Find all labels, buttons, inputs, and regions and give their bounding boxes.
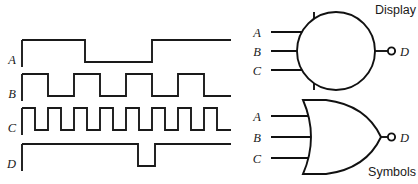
waveform-b bbox=[22, 74, 231, 96]
display-gate-inversion-bubble-icon bbox=[388, 47, 395, 54]
waveforms-group bbox=[22, 40, 231, 171]
display-gate[interactable]: A B C D bbox=[252, 12, 409, 90]
display-gate-input-label-c: C bbox=[253, 64, 262, 78]
waveform-c bbox=[22, 108, 231, 130]
or-gate-body bbox=[303, 100, 381, 174]
logic-symbols-svg: A B C D Display A B bbox=[240, 0, 418, 184]
caption-symbols: Symbols bbox=[368, 165, 416, 179]
caption-display: Display bbox=[375, 3, 417, 17]
waveform-d-label: D bbox=[6, 157, 16, 171]
timing-diagram-panel: ABCD bbox=[0, 0, 240, 184]
display-gate-input-label-a: A bbox=[252, 26, 261, 40]
waveform-labels-group: ABCD bbox=[6, 53, 17, 171]
figure-root: ABCD A B C D bbox=[0, 0, 418, 184]
or-gate-inversion-bubble-icon bbox=[388, 133, 395, 140]
or-gate-input-label-b: B bbox=[253, 131, 261, 145]
or-gate[interactable]: A B C D bbox=[252, 100, 409, 174]
waveform-a-label: A bbox=[7, 53, 16, 67]
display-gate-output-label-d: D bbox=[399, 45, 409, 59]
or-gate-output-label-d: D bbox=[399, 131, 409, 145]
waveform-b-label: B bbox=[8, 87, 16, 101]
or-gate-input-label-c: C bbox=[253, 152, 262, 166]
display-gate-input-label-b: B bbox=[253, 45, 261, 59]
waveform-a bbox=[22, 40, 231, 62]
timing-diagram-svg: ABCD bbox=[0, 0, 240, 184]
waveform-d bbox=[22, 144, 231, 166]
or-gate-input-label-a: A bbox=[252, 110, 261, 124]
waveform-c-label: C bbox=[8, 121, 17, 135]
display-gate-body-circle bbox=[297, 12, 375, 90]
logic-symbols-panel: A B C D Display A B bbox=[240, 0, 418, 184]
